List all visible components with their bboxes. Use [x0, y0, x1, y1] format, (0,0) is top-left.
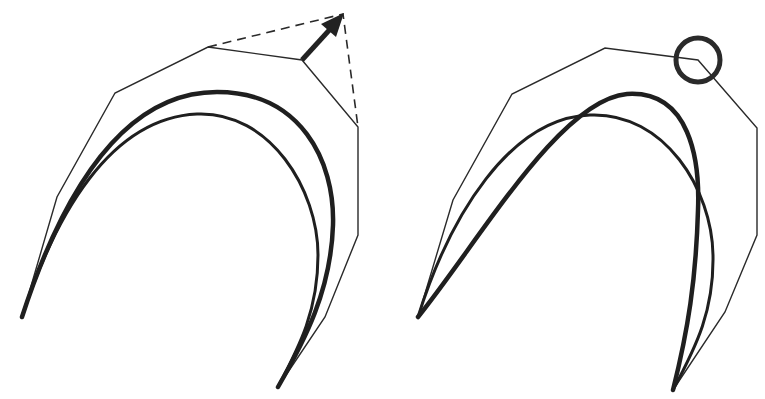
right-control-polygon: [418, 48, 757, 390]
left-control-polygon: [22, 47, 358, 387]
left-panel: [22, 13, 358, 387]
right-panel: [418, 38, 757, 390]
bspline-figure: [0, 0, 765, 399]
right-original-curve: [418, 115, 713, 390]
arrow-icon: [302, 13, 344, 60]
left-original-curve: [22, 114, 318, 387]
figure-canvas: [0, 0, 765, 399]
left-modified-curve: [22, 92, 333, 387]
